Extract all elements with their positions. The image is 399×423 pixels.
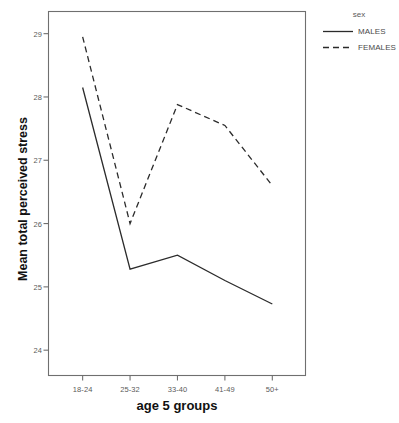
x-tick-label: 25-32 (120, 385, 140, 394)
legend-label: FEMALES (358, 43, 396, 52)
line-chart: 242526272829 18-2425-3233-4041-4950+ Mea… (0, 0, 399, 423)
legend: sex MALESFEMALES (323, 10, 399, 58)
x-tick-label: 33-40 (168, 385, 188, 394)
y-axis-title: Mean total perceived stress (16, 84, 30, 314)
plot-area-svg (0, 0, 399, 423)
legend-title: sex (319, 10, 399, 19)
legend-entries: MALESFEMALES (323, 26, 399, 52)
series-lines (83, 37, 273, 304)
plot-frame (49, 12, 306, 376)
legend-label: MALES (358, 27, 386, 36)
x-tick-label: 41-49 (215, 385, 235, 394)
series-line-males (83, 87, 273, 304)
x-axis-ticks (83, 376, 273, 381)
legend-item-females[interactable]: FEMALES (323, 42, 399, 52)
y-axis-ticks (44, 34, 49, 351)
x-tick-label: 18-24 (73, 385, 93, 394)
legend-item-males[interactable]: MALES (323, 26, 399, 36)
x-axis-title: age 5 groups (48, 398, 306, 413)
legend-swatch-dashed-line-icon (323, 43, 353, 52)
y-tick-label: 29 (18, 29, 42, 38)
y-tick-label: 24 (18, 346, 42, 355)
legend-swatch-solid-line-icon (323, 27, 353, 36)
x-tick-label: 50+ (266, 385, 279, 394)
